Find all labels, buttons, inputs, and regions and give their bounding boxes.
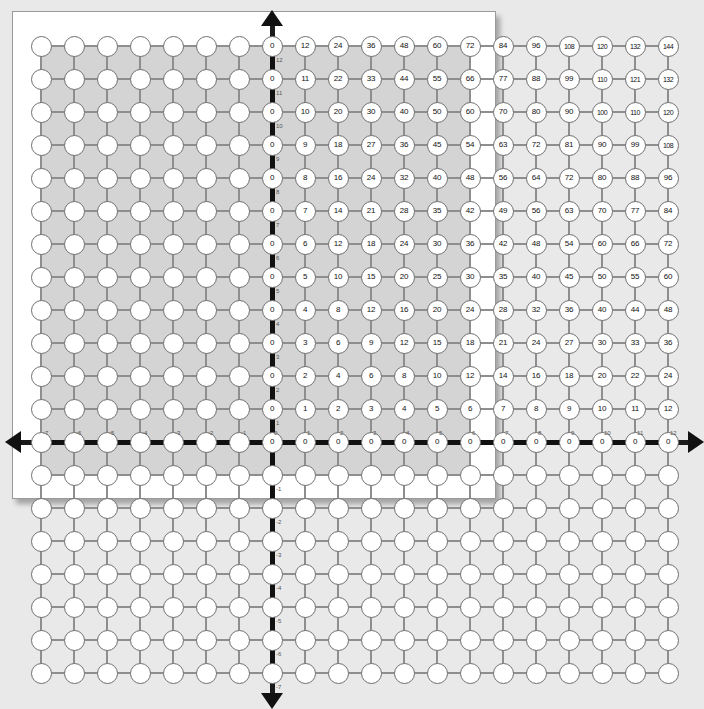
blank-node[interactable] — [130, 234, 151, 255]
product-node[interactable]: 45 — [427, 135, 448, 156]
blank-node[interactable] — [460, 465, 481, 486]
product-node[interactable]: 24 — [328, 36, 349, 57]
blank-node[interactable] — [64, 300, 85, 321]
product-node[interactable]: 72 — [658, 234, 679, 255]
blank-node[interactable] — [592, 465, 613, 486]
product-node[interactable]: 0 — [262, 267, 283, 288]
blank-node[interactable] — [97, 234, 118, 255]
blank-node[interactable] — [130, 267, 151, 288]
blank-node[interactable] — [97, 399, 118, 420]
product-node[interactable]: 60 — [460, 102, 481, 123]
product-node[interactable]: 50 — [427, 102, 448, 123]
product-node[interactable]: 132 — [658, 69, 679, 90]
blank-node[interactable] — [97, 300, 118, 321]
product-node[interactable]: 48 — [658, 300, 679, 321]
blank-node[interactable] — [559, 597, 580, 618]
blank-node[interactable] — [31, 663, 52, 684]
blank-node[interactable] — [262, 663, 283, 684]
blank-node[interactable] — [64, 36, 85, 57]
blank-node[interactable] — [196, 300, 217, 321]
product-node[interactable]: 11 — [625, 399, 646, 420]
product-node[interactable]: 24 — [361, 168, 382, 189]
blank-node[interactable] — [163, 36, 184, 57]
product-node[interactable]: 99 — [559, 69, 580, 90]
product-node[interactable]: 50 — [592, 267, 613, 288]
product-node[interactable]: 60 — [427, 36, 448, 57]
blank-node[interactable] — [229, 630, 250, 651]
blank-node[interactable] — [163, 201, 184, 222]
blank-node[interactable] — [163, 498, 184, 519]
product-node[interactable]: 10 — [592, 399, 613, 420]
blank-node[interactable] — [493, 663, 514, 684]
blank-node[interactable] — [262, 465, 283, 486]
product-node[interactable]: 35 — [427, 201, 448, 222]
product-node[interactable]: 12 — [460, 366, 481, 387]
product-node[interactable]: 0 — [262, 432, 283, 453]
product-node[interactable]: 16 — [526, 366, 547, 387]
product-node[interactable]: 55 — [625, 267, 646, 288]
product-node[interactable]: 27 — [559, 333, 580, 354]
blank-node[interactable] — [526, 498, 547, 519]
blank-node[interactable] — [97, 69, 118, 90]
product-node[interactable]: 54 — [460, 135, 481, 156]
product-node[interactable]: 8 — [295, 168, 316, 189]
blank-node[interactable] — [262, 597, 283, 618]
blank-node[interactable] — [64, 69, 85, 90]
blank-node[interactable] — [97, 333, 118, 354]
blank-node[interactable] — [328, 531, 349, 552]
blank-node[interactable] — [361, 465, 382, 486]
blank-node[interactable] — [427, 531, 448, 552]
product-node[interactable]: 36 — [658, 333, 679, 354]
product-node[interactable]: 24 — [526, 333, 547, 354]
blank-node[interactable] — [31, 399, 52, 420]
product-node[interactable]: 0 — [262, 399, 283, 420]
blank-node[interactable] — [592, 564, 613, 585]
product-node[interactable]: 36 — [460, 234, 481, 255]
blank-node[interactable] — [97, 267, 118, 288]
product-node[interactable]: 32 — [394, 168, 415, 189]
blank-node[interactable] — [493, 564, 514, 585]
blank-node[interactable] — [295, 597, 316, 618]
blank-node[interactable] — [262, 498, 283, 519]
blank-node[interactable] — [394, 531, 415, 552]
blank-node[interactable] — [427, 630, 448, 651]
blank-node[interactable] — [31, 564, 52, 585]
product-node[interactable]: 56 — [493, 168, 514, 189]
blank-node[interactable] — [130, 366, 151, 387]
blank-node[interactable] — [229, 267, 250, 288]
blank-node[interactable] — [163, 399, 184, 420]
blank-node[interactable] — [427, 597, 448, 618]
blank-node[interactable] — [130, 465, 151, 486]
product-node[interactable]: 66 — [460, 69, 481, 90]
blank-node[interactable] — [625, 465, 646, 486]
blank-node[interactable] — [229, 432, 250, 453]
product-node[interactable]: 10 — [295, 102, 316, 123]
product-node[interactable]: 40 — [394, 102, 415, 123]
blank-node[interactable] — [229, 300, 250, 321]
blank-node[interactable] — [196, 234, 217, 255]
product-node[interactable]: 84 — [493, 36, 514, 57]
blank-node[interactable] — [130, 36, 151, 57]
blank-node[interactable] — [196, 168, 217, 189]
product-node[interactable]: 10 — [427, 366, 448, 387]
product-node[interactable]: 24 — [460, 300, 481, 321]
blank-node[interactable] — [163, 465, 184, 486]
blank-node[interactable] — [262, 564, 283, 585]
product-node[interactable]: 0 — [460, 432, 481, 453]
blank-node[interactable] — [163, 102, 184, 123]
blank-node[interactable] — [196, 102, 217, 123]
blank-node[interactable] — [31, 366, 52, 387]
product-node[interactable]: 36 — [394, 135, 415, 156]
blank-node[interactable] — [64, 663, 85, 684]
product-node[interactable]: 12 — [295, 36, 316, 57]
blank-node[interactable] — [64, 399, 85, 420]
blank-node[interactable] — [229, 135, 250, 156]
product-node[interactable]: 9 — [361, 333, 382, 354]
blank-node[interactable] — [460, 531, 481, 552]
product-node[interactable]: 63 — [559, 201, 580, 222]
product-node[interactable]: 8 — [394, 366, 415, 387]
blank-node[interactable] — [97, 597, 118, 618]
blank-node[interactable] — [295, 663, 316, 684]
blank-node[interactable] — [196, 564, 217, 585]
blank-node[interactable] — [328, 630, 349, 651]
